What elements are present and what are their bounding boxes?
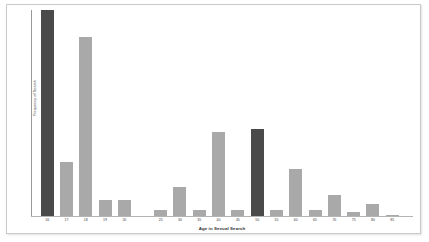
bar (347, 212, 360, 216)
bars-layer (31, 10, 413, 217)
x-tick-label: 75 (352, 218, 356, 222)
x-tick-label: 65 (313, 218, 317, 222)
bar (212, 132, 225, 216)
x-axis-title: Age in Sexual Search (31, 226, 413, 231)
x-tick-label: 35 (197, 218, 201, 222)
x-tick-label: 80 (371, 218, 375, 222)
bar (41, 10, 54, 216)
x-tick-label: 40 (217, 218, 221, 222)
bar (386, 215, 399, 216)
x-tick-label: 30 (178, 218, 182, 222)
bar (99, 200, 112, 216)
bar (79, 37, 92, 216)
x-tick-label: 55 (274, 218, 278, 222)
bar (366, 204, 379, 216)
plot-area: Frequency of Search 16171819202530354045… (31, 10, 413, 217)
figure-card: Frequency of Search 16171819202530354045… (6, 4, 421, 234)
bar (118, 200, 131, 216)
x-tick-label: 25 (159, 218, 163, 222)
bar (328, 195, 341, 216)
x-tick-label: 85 (390, 218, 394, 222)
bar (173, 187, 186, 216)
bar (309, 210, 322, 216)
x-tick-label: 16 (45, 218, 49, 222)
x-tick-label: 20 (122, 218, 126, 222)
x-tick-label: 18 (84, 218, 88, 222)
x-tick-label: 19 (103, 218, 107, 222)
bar (289, 169, 302, 216)
bar (60, 162, 73, 216)
y-axis-title: Frequency of Search (33, 50, 37, 146)
bar (270, 210, 283, 216)
x-tick-label: 70 (332, 218, 336, 222)
bar (154, 210, 167, 216)
x-tick-label: 50 (255, 218, 259, 222)
x-tick-label: 17 (64, 218, 68, 222)
bar (193, 210, 206, 216)
x-tick-label: 60 (294, 218, 298, 222)
bar (231, 210, 244, 216)
bar (251, 129, 264, 216)
x-tick-label: 45 (236, 218, 240, 222)
